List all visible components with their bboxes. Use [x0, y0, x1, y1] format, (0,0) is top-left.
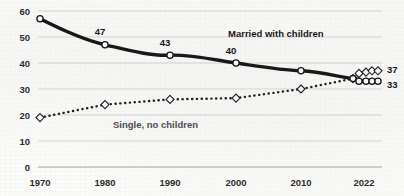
y-axis-labels: 60 50 40 30 20 10 0 [19, 6, 30, 173]
x-tick-2022: 2022 [353, 177, 374, 188]
marker-married-2021 [369, 78, 375, 84]
data-label-1990: 43 [160, 37, 171, 48]
series-married-with-children [37, 16, 381, 85]
y-tick-50: 50 [19, 32, 30, 43]
x-tick-2010: 2010 [290, 177, 311, 188]
marker-single-1980 [101, 101, 109, 109]
marker-single-2022 [374, 67, 382, 75]
end-label-married: 33 [387, 79, 398, 90]
data-label-1980: 47 [95, 26, 106, 37]
marker-married-2019 [356, 78, 362, 84]
marker-married-1990 [167, 52, 173, 58]
marker-married-2010 [298, 68, 304, 74]
x-tick-1970: 1970 [29, 177, 50, 188]
y-tick-10: 10 [19, 136, 30, 147]
x-tick-1980: 1980 [94, 177, 115, 188]
marker-single-2019 [355, 69, 363, 77]
annotation-single-no-children: Single, no children [113, 119, 198, 130]
end-label-single: 37 [387, 64, 398, 75]
data-label-2000: 40 [226, 45, 237, 56]
marker-married-1970 [37, 16, 43, 22]
line-chart: 60 50 40 30 20 10 0 1970 1980 1990 2000 … [0, 0, 404, 196]
marker-married-2018 [350, 76, 356, 82]
marker-married-1980 [102, 42, 108, 48]
chart-container: 60 50 40 30 20 10 0 1970 1980 1990 2000 … [0, 0, 404, 196]
married-with-children-line [40, 19, 378, 81]
x-tick-2000: 2000 [225, 177, 246, 188]
y-tick-30: 30 [19, 84, 30, 95]
y-tick-0: 0 [25, 162, 30, 173]
marker-single-1990 [166, 95, 174, 103]
marker-married-2022 [375, 78, 381, 84]
x-axis-labels: 1970 1980 1990 2000 2010 2022 [29, 177, 374, 188]
end-labels: 37 33 [387, 64, 398, 90]
single-no-children-line [40, 71, 378, 118]
data-labels: 47 43 40 [95, 26, 237, 56]
marker-married-2020 [363, 78, 369, 84]
annotation-married-with-children: Married with children [228, 28, 324, 39]
marker-single-2010 [297, 85, 305, 93]
y-tick-60: 60 [19, 6, 30, 17]
marker-married-2000 [233, 60, 239, 66]
y-tick-20: 20 [19, 110, 30, 121]
y-tick-40: 40 [19, 58, 30, 69]
x-tick-1990: 1990 [159, 177, 180, 188]
marker-single-2000 [232, 94, 240, 102]
